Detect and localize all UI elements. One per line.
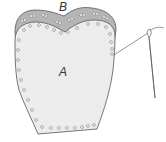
thread <box>114 27 164 55</box>
sewing-diagram <box>0 0 166 142</box>
label-piece-b: B <box>59 0 67 14</box>
needle-icon <box>147 29 155 98</box>
label-piece-a: A <box>59 65 67 79</box>
